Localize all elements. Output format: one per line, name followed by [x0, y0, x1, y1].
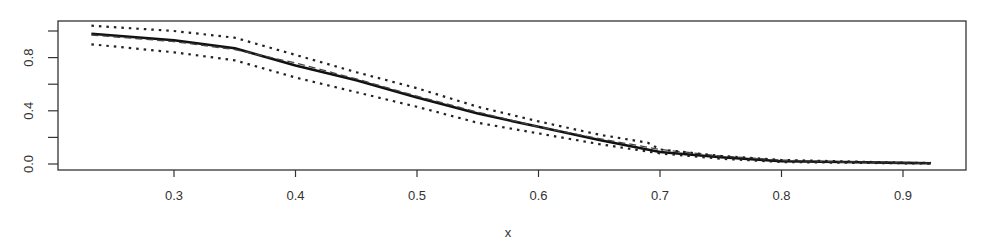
x-axis: 0.30.40.50.60.70.80.9 — [165, 170, 912, 203]
x-axis-title: x — [505, 225, 512, 240]
x-tick-label: 0.8 — [772, 188, 790, 203]
x-tick-label: 0.6 — [529, 188, 547, 203]
series-lower-band-line — [91, 44, 931, 163]
x-tick-label: 0.4 — [286, 188, 304, 203]
series-layer — [91, 26, 931, 164]
x-tick-label: 0.9 — [894, 188, 912, 203]
series-estimate-line — [91, 34, 931, 164]
y-axis: 0.00.40.8 — [21, 31, 58, 173]
series-true-line — [91, 35, 931, 163]
x-tick-label: 0.3 — [165, 188, 183, 203]
chart: 0.30.40.50.60.70.80.9 0.00.40.8 x — [0, 0, 983, 250]
y-tick-label: 0.4 — [21, 102, 36, 120]
x-tick-label: 0.7 — [651, 188, 669, 203]
y-tick-label: 0.8 — [21, 49, 36, 67]
y-tick-label: 0.0 — [21, 155, 36, 173]
x-tick-label: 0.5 — [408, 188, 426, 203]
